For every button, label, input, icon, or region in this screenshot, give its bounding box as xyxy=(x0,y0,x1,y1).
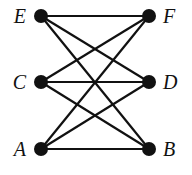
node-C xyxy=(34,75,48,89)
node-label-B: B xyxy=(163,138,175,160)
node-label-A: A xyxy=(12,138,27,160)
node-label-C: C xyxy=(13,71,27,93)
node-label-E: E xyxy=(13,5,26,27)
node-F xyxy=(142,9,156,23)
node-A xyxy=(34,142,48,156)
node-B xyxy=(142,142,156,156)
node-E xyxy=(34,9,48,23)
edges xyxy=(41,16,149,149)
node-label-D: D xyxy=(162,71,178,93)
node-label-F: F xyxy=(162,5,176,27)
bipartite-graph: EFCDAB xyxy=(0,0,192,175)
node-D xyxy=(142,75,156,89)
